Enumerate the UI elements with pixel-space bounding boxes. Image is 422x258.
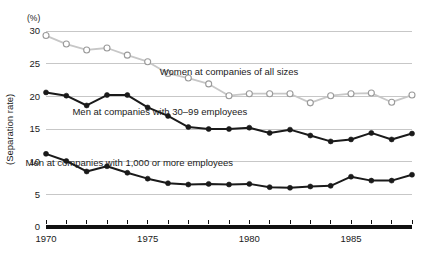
data-point-2-1987: [389, 178, 394, 183]
y-tick-label-5: 5: [35, 189, 40, 200]
data-point-1-1983: [308, 133, 313, 138]
data-point-0-1971: [63, 41, 69, 47]
data-point-2-1982: [288, 185, 293, 190]
data-point-2-1978: [206, 181, 211, 186]
data-point-1-1973: [105, 93, 110, 98]
series-label-0: Women at companies of all sizes: [160, 66, 299, 77]
data-point-2-1981: [267, 185, 272, 190]
data-point-0-1978: [206, 81, 212, 87]
data-point-0-1974: [124, 52, 130, 58]
data-point-0-1973: [104, 45, 110, 51]
data-point-1-1974: [125, 93, 130, 98]
data-point-0-1987: [389, 99, 395, 105]
x-tick-label-1975: 1975: [137, 233, 158, 244]
y-axis-unit-label: (%): [27, 13, 40, 23]
x-tick-label-1980: 1980: [239, 233, 260, 244]
data-point-0-1988: [409, 92, 415, 98]
data-point-2-1972: [84, 169, 89, 174]
data-point-0-1972: [84, 47, 90, 53]
data-point-1-1981: [267, 130, 272, 135]
data-point-1-1982: [288, 127, 293, 132]
data-point-2-1970: [44, 151, 49, 156]
data-point-1-1980: [247, 125, 252, 130]
data-point-0-1970: [43, 33, 49, 39]
series-annotation-group: Women at companies of all sizesMen at co…: [26, 66, 299, 168]
y-tick-label-0: 0: [35, 221, 40, 232]
y-axis-title: (Separation rate): [4, 94, 15, 165]
data-point-1-1986: [369, 130, 374, 135]
y-axis-tick-label-group: 051015202530: [29, 25, 40, 232]
series-line-1: [46, 92, 412, 141]
data-point-0-1986: [368, 90, 374, 96]
data-point-1-1970: [44, 90, 49, 95]
data-point-2-1976: [166, 181, 171, 186]
data-point-2-1980: [247, 181, 252, 186]
x-tick-label-1970: 1970: [35, 233, 56, 244]
series-label-2: Men at companies with 1,000 or more empl…: [26, 157, 234, 168]
y-tick-label-25: 25: [29, 58, 40, 69]
data-point-2-1977: [186, 182, 191, 187]
data-point-1-1988: [410, 131, 415, 136]
data-point-2-1985: [349, 174, 354, 179]
data-point-1-1985: [349, 137, 354, 142]
data-point-1-1977: [186, 125, 191, 130]
data-point-2-1986: [369, 178, 374, 183]
data-point-0-1975: [145, 59, 151, 65]
data-point-0-1980: [246, 91, 252, 97]
data-point-0-1984: [328, 93, 334, 99]
series-label-1: Men at companies with 30–99 employees: [72, 106, 247, 117]
data-point-2-1984: [328, 183, 333, 188]
separation-rate-line-chart: 051015202530 1970197519801985 Women at c…: [0, 0, 422, 258]
data-point-1-1978: [206, 127, 211, 132]
chart-container: 051015202530 1970197519801985 Women at c…: [0, 0, 422, 258]
data-point-2-1974: [125, 170, 130, 175]
data-point-1-1971: [64, 93, 69, 98]
data-point-2-1988: [410, 172, 415, 177]
y-tick-label-20: 20: [29, 91, 40, 102]
data-point-2-1975: [145, 176, 150, 181]
data-point-0-1982: [287, 91, 293, 97]
y-tick-label-30: 30: [29, 25, 40, 36]
x-axis-group: [46, 220, 412, 227]
data-point-1-1984: [328, 139, 333, 144]
data-point-1-1979: [227, 127, 232, 132]
data-point-2-1983: [308, 184, 313, 189]
data-point-0-1979: [226, 93, 232, 99]
x-tick-label-1985: 1985: [340, 233, 361, 244]
data-point-0-1985: [348, 91, 354, 97]
data-point-1-1987: [389, 137, 394, 142]
x-axis-tick-label-group: 1970197519801985: [35, 233, 361, 244]
data-point-0-1983: [307, 100, 313, 106]
y-tick-label-15: 15: [29, 123, 40, 134]
data-point-2-1979: [227, 182, 232, 187]
data-point-0-1981: [267, 91, 273, 97]
